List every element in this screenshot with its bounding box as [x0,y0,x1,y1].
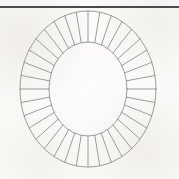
radial-divider [21,75,50,80]
radial-divider [125,62,152,73]
radial-divider [95,12,100,43]
radial-divider [76,135,81,166]
segmented-ring-figure [0,0,179,179]
radial-segment-dividers [20,11,156,167]
radial-divider [125,105,152,116]
radial-divider [126,75,155,80]
diagram-page [0,0,179,179]
radial-divider [65,16,75,45]
radial-divider [95,135,100,166]
radial-divider [101,133,111,162]
radial-divider [126,97,155,102]
radial-divider [65,133,75,162]
radial-divider [24,105,51,116]
radial-divider [101,16,111,45]
radial-divider [21,97,50,102]
radial-divider [76,12,81,43]
radial-divider [24,62,51,73]
elliptical-annulus [20,11,156,167]
inner-ellipse [49,42,127,136]
